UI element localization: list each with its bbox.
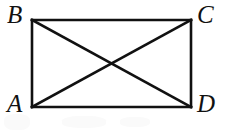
geometry-figure: B C A D [0, 0, 225, 134]
vertex-label-a: A [7, 91, 22, 116]
vertex-label-c: C [197, 2, 214, 27]
vertex-label-d: D [197, 91, 215, 116]
rectangle-with-diagonals-drawing [0, 0, 225, 134]
vertex-label-b: B [7, 2, 22, 27]
